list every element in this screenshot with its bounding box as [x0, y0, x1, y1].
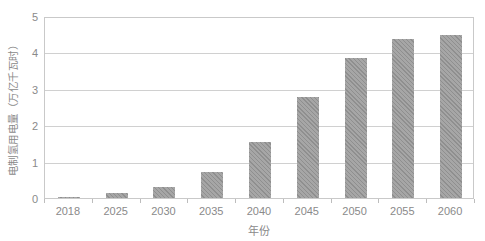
x-tick-label: 2035: [187, 205, 235, 218]
bar: [297, 97, 319, 198]
x-tick-label: 2055: [378, 205, 426, 218]
x-tick-mark: [283, 199, 284, 203]
y-tick-label: 1: [8, 157, 38, 169]
x-tick-label: 2050: [331, 205, 379, 218]
x-tick-mark: [140, 199, 141, 203]
x-tick-mark: [378, 199, 379, 203]
hydrogen-electricity-bar-chart: 电制氢用电量（万亿千瓦时） 012345 2018202520302035204…: [0, 0, 485, 241]
x-tick-mark: [235, 199, 236, 203]
x-tick-label: 2040: [235, 205, 283, 218]
bar: [440, 35, 462, 198]
bar: [392, 39, 414, 198]
bar: [153, 187, 175, 198]
y-tick-label: 4: [8, 47, 38, 59]
x-tick-mark: [331, 199, 332, 203]
y-tick-label: 5: [8, 11, 38, 23]
x-tick-label: 2025: [92, 205, 140, 218]
bar: [58, 197, 80, 198]
x-axis-title: 年份: [44, 222, 474, 238]
bar: [201, 172, 223, 198]
y-tick-label: 0: [8, 193, 38, 205]
bar: [345, 58, 367, 198]
bar: [249, 142, 271, 198]
x-tick-label: 2045: [283, 205, 331, 218]
y-tick-label: 3: [8, 84, 38, 96]
x-tick-mark: [92, 199, 93, 203]
x-tick-label: 2018: [44, 205, 92, 218]
x-tick-label: 2060: [426, 205, 474, 218]
x-tick-mark: [44, 199, 45, 203]
y-tick-label: 2: [8, 120, 38, 132]
x-tick-mark: [187, 199, 188, 203]
x-tick-mark: [474, 199, 475, 203]
x-tick-label: 2030: [139, 205, 187, 218]
plot-area: [44, 17, 474, 199]
x-tick-mark: [426, 199, 427, 203]
bar: [106, 193, 128, 198]
